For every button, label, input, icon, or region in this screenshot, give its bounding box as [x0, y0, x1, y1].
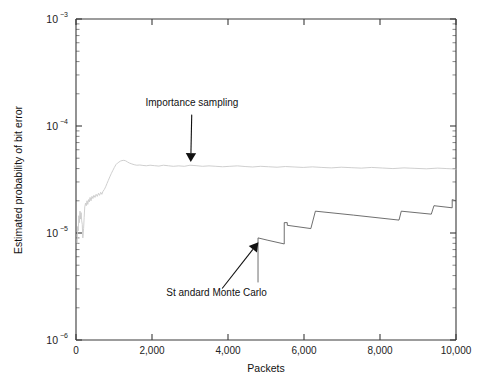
- svg-text:10: 10: [46, 120, 58, 132]
- svg-text:−4: −4: [60, 118, 68, 125]
- annotation-standard-monte-carlo-label: St andard Monte Carlo: [166, 287, 267, 298]
- annotation-importance-sampling-leader: [191, 115, 192, 153]
- y-axis-title: Estimated probability of bit error: [12, 105, 24, 254]
- svg-text:10: 10: [46, 227, 58, 239]
- svg-text:−6: −6: [60, 332, 68, 339]
- svg-text:−5: −5: [60, 225, 68, 232]
- x-tick-label: 10,000: [441, 345, 472, 356]
- y-tick-label: 10−3: [46, 11, 68, 25]
- figure-container: 02,0004,0006,0008,00010,000 10−310−410−5…: [0, 0, 485, 390]
- x-tick-label: 0: [73, 345, 79, 356]
- x-tick-label: 2,000: [139, 345, 164, 356]
- x-tick-label: 6,000: [291, 345, 316, 356]
- annotation-importance-sampling-label: Importance sampling: [145, 97, 238, 108]
- y-tick-label: 10−5: [46, 225, 68, 239]
- y-axis-tick-labels: 10−310−410−510−6: [46, 11, 68, 346]
- y-tick-label: 10−6: [46, 332, 68, 346]
- svg-text:10: 10: [46, 334, 58, 346]
- chart-canvas: 02,0004,0006,0008,00010,000 10−310−410−5…: [0, 0, 485, 390]
- x-tick-label: 8,000: [367, 345, 392, 356]
- y-tick-label: 10−4: [46, 118, 68, 132]
- svg-text:−3: −3: [60, 11, 68, 18]
- svg-text:10: 10: [46, 13, 58, 25]
- x-axis-title: Packets: [247, 362, 284, 374]
- x-axis-tick-labels: 02,0004,0006,0008,00010,000: [73, 345, 472, 356]
- x-tick-label: 4,000: [215, 345, 240, 356]
